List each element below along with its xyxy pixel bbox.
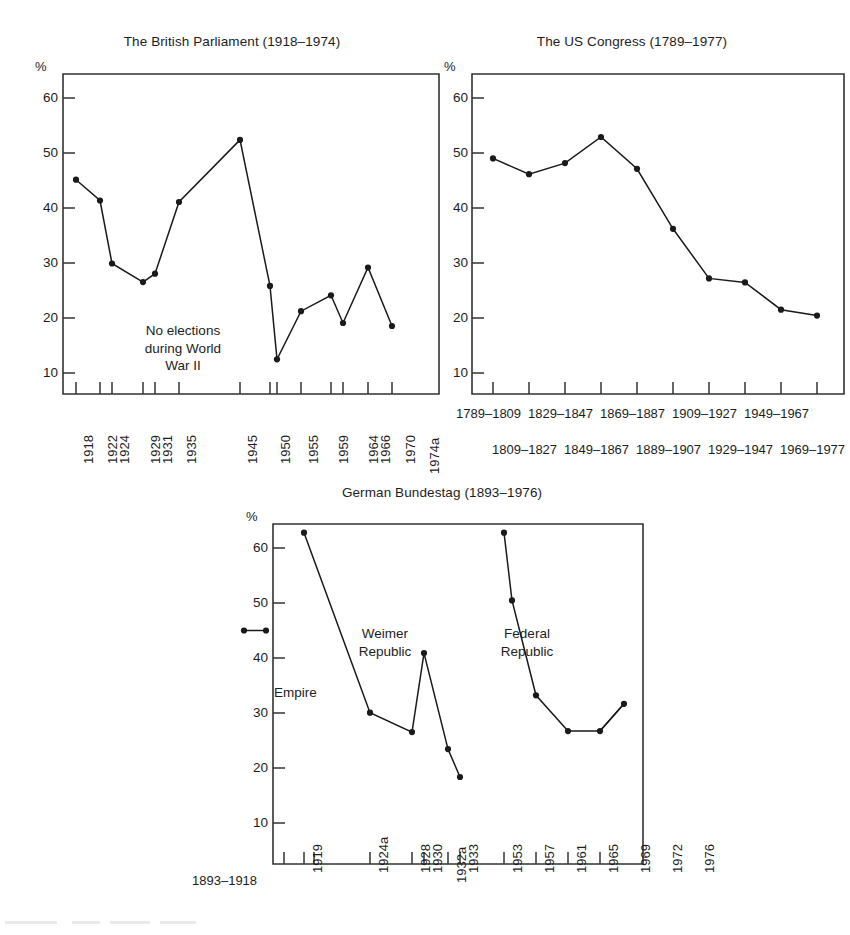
x-tick-label-congress-9: 1969–1977 xyxy=(780,442,840,458)
x-tick-label-congress-7: 1929–1947 xyxy=(708,442,768,458)
chart-title-british-parliament: The British Parliament (1918–1974) xyxy=(22,34,442,49)
chart-panel-us-congress: The US Congress (1789–1977) % 60 50 40 3… xyxy=(432,34,850,494)
x-tick-label-congress-2: 1829–1847 xyxy=(528,406,588,422)
x-tick-label-british-0: 1918 xyxy=(81,435,96,464)
x-tick-label-british-5: 1935 xyxy=(184,435,199,464)
y-tick-label-60-congress: 60 xyxy=(432,90,468,105)
scan-artifact-bottom-2 xyxy=(72,921,100,924)
x-tick-label-bundestag-2: 1924a xyxy=(376,837,391,873)
y-tick-label-50-bundestag: 50 xyxy=(230,595,268,610)
y-tick-label-40-bundestag: 40 xyxy=(230,650,268,665)
x-tick-label-bundestag-0: 1893–1918 xyxy=(192,873,284,889)
data-points-congress xyxy=(490,134,820,319)
chart-title-german-bundestag: German Bundestag (1893–1976) xyxy=(242,485,642,500)
x-tick-label-congress-3: 1849–1867 xyxy=(564,442,624,458)
scan-artifact-bottom-4 xyxy=(160,921,196,924)
y-axis-unit-label-congress: % xyxy=(444,59,456,74)
y-tick-label-30-british: 30 xyxy=(22,255,58,270)
series-empire-bundestag xyxy=(241,627,269,633)
x-tick-label-bundestag-9: 1961 xyxy=(574,844,589,873)
x-tick-label-british-12: 1970 xyxy=(403,435,418,464)
x-tick-label-congress-4: 1869–1887 xyxy=(600,406,660,422)
y-tick-label-40-british: 40 xyxy=(22,200,58,215)
x-tick-label-bundestag-6: 1933 xyxy=(466,844,481,873)
y-tick-marks-congress xyxy=(472,98,484,373)
y-tick-label-60-bundestag: 60 xyxy=(230,540,268,555)
x-tick-marks-congress xyxy=(493,382,817,394)
plot-frame-congress xyxy=(472,74,844,394)
y-axis-unit-label-bundestag: % xyxy=(246,509,258,524)
x-tick-label-congress-8: 1949–1967 xyxy=(744,406,804,422)
plot-area-us-congress xyxy=(471,73,845,395)
x-tick-label-congress-6: 1909–1927 xyxy=(672,406,732,422)
scan-artifact-bottom-1 xyxy=(5,921,57,924)
plot-svg-bundestag xyxy=(272,523,644,865)
y-tick-label-60-british: 60 xyxy=(22,90,58,105)
y-tick-label-20-congress: 20 xyxy=(432,310,468,325)
plot-frame-bundestag xyxy=(273,524,643,864)
y-tick-label-20-british: 20 xyxy=(22,310,58,325)
y-tick-label-50-british: 50 xyxy=(22,145,58,160)
x-tick-label-bundestag-10: 1965 xyxy=(606,844,621,873)
x-tick-label-congress-1: 1809–1827 xyxy=(492,442,552,458)
x-tick-label-bundestag-8: 1957 xyxy=(542,844,557,873)
x-tick-label-bundestag-7: 1953 xyxy=(510,844,525,873)
annotation-weimar-line-1: Weimer xyxy=(330,625,440,643)
chart-panel-british-parliament: The British Parliament (1918–1974) % 60 … xyxy=(22,34,442,454)
x-tick-label-british-2: 1924 xyxy=(117,435,132,464)
plot-area-german-bundestag xyxy=(272,523,644,865)
x-tick-label-bundestag-4: 1930 xyxy=(430,844,445,873)
x-tick-label-bundestag-12: 1972 xyxy=(670,844,685,873)
x-tick-label-bundestag-13: 1976 xyxy=(702,844,717,873)
annotation-weimar-republic-bundestag: Weimer Republic xyxy=(330,625,440,660)
y-tick-label-50-congress: 50 xyxy=(432,145,468,160)
annotation-line-3: War II xyxy=(108,357,258,375)
scan-artifact-bottom-3 xyxy=(110,921,150,924)
annotation-federal-line-2: Republic xyxy=(472,643,582,661)
annotation-line-1: No elections xyxy=(108,322,258,340)
y-tick-label-30-congress: 30 xyxy=(432,255,468,270)
x-tick-label-british-9: 1959 xyxy=(336,435,351,464)
annotation-no-elections-british: No elections during World War II xyxy=(108,322,258,375)
y-tick-label-10-bundestag: 10 xyxy=(230,815,268,830)
annotation-empire-bundestag: Empire xyxy=(274,685,317,700)
data-line-congress xyxy=(493,137,817,316)
x-tick-label-british-8: 1955 xyxy=(306,435,321,464)
y-tick-label-30-bundestag: 30 xyxy=(230,705,268,720)
chart-panel-german-bundestag: German Bundestag (1893–1976) % 60 50 40 … xyxy=(222,485,652,935)
chart-title-us-congress: The US Congress (1789–1977) xyxy=(432,34,832,49)
x-tick-label-bundestag-1: 1919 xyxy=(310,844,325,873)
annotation-weimar-line-2: Republic xyxy=(330,643,440,661)
y-tick-label-40-congress: 40 xyxy=(432,200,468,215)
annotation-federal-republic-bundestag: Federal Republic xyxy=(472,625,582,660)
x-tick-label-congress-5: 1889–1907 xyxy=(636,442,696,458)
x-tick-label-bundestag-11: 1969 xyxy=(638,844,653,873)
annotation-federal-line-1: Federal xyxy=(472,625,582,643)
x-tick-marks-british xyxy=(76,382,392,394)
y-tick-label-10-british: 10 xyxy=(22,365,58,380)
x-tick-label-british-7: 1950 xyxy=(278,435,293,464)
x-tick-label-british-11: 1966 xyxy=(378,435,393,464)
y-tick-label-10-congress: 10 xyxy=(432,365,468,380)
plot-svg-us-congress xyxy=(471,73,845,395)
y-tick-marks-british xyxy=(63,98,75,373)
x-tick-label-congress-0: 1789–1809 xyxy=(456,406,516,422)
annotation-line-2: during World xyxy=(108,340,258,358)
y-tick-label-20-bundestag: 20 xyxy=(230,760,268,775)
x-tick-label-british-6: 1945 xyxy=(245,435,260,464)
x-tick-label-british-4: 1931 xyxy=(160,435,175,464)
y-axis-unit-label-british: % xyxy=(35,59,47,74)
